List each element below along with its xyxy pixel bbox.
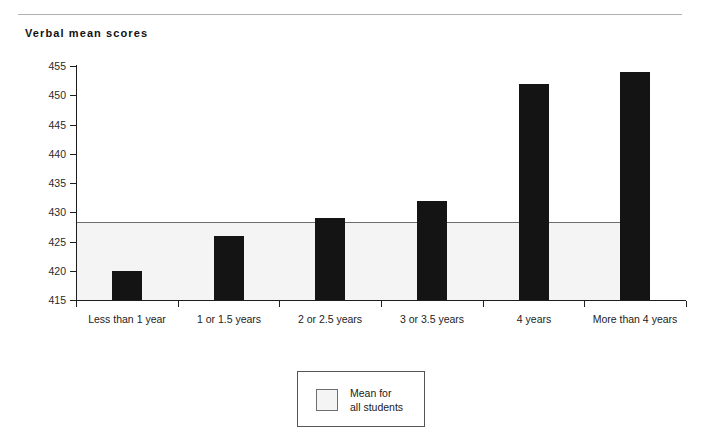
legend-label-line1: Mean for (350, 386, 403, 400)
y-tick-label: 455 (22, 61, 66, 72)
y-tick-label-wrap: 440 (18, 149, 66, 150)
y-tick-label: 415 (22, 295, 66, 306)
x-tick (381, 301, 382, 307)
x-tick (686, 301, 687, 307)
x-tick (279, 301, 280, 307)
legend: Mean for all students (297, 371, 425, 427)
y-tick (70, 183, 76, 184)
y-tick (70, 212, 76, 213)
y-tick (70, 154, 76, 155)
y-tick (70, 95, 76, 96)
y-tick-label: 425 (22, 237, 66, 248)
y-tick-label: 420 (22, 266, 66, 277)
y-tick-label-wrap: 450 (18, 90, 66, 91)
y-tick-label-wrap: 415 (18, 295, 66, 296)
chart-figure: Verbal mean scores 455450445440435430425… (0, 0, 702, 441)
y-tick-label-wrap: 435 (18, 178, 66, 179)
bar (315, 218, 345, 300)
y-tick-label: 450 (22, 90, 66, 101)
y-tick (70, 242, 76, 243)
x-axis-category-label: 2 or 2.5 years (298, 313, 362, 325)
x-axis-category-label: Less than 1 year (88, 313, 166, 325)
y-tick-label: 430 (22, 207, 66, 218)
x-axis-category-label: More than 4 years (593, 313, 678, 325)
bar (519, 84, 549, 300)
y-tick-label-wrap: 430 (18, 207, 66, 208)
y-tick (70, 271, 76, 272)
bar (620, 72, 650, 300)
bar (214, 236, 244, 300)
y-tick (70, 66, 76, 67)
x-tick (483, 301, 484, 307)
x-axis-category-label: 1 or 1.5 years (197, 313, 261, 325)
x-tick (178, 301, 179, 307)
bar (417, 201, 447, 300)
x-axis-category-label: 4 years (517, 313, 551, 325)
bar (112, 271, 142, 300)
y-tick-label-wrap: 425 (18, 237, 66, 238)
legend-label-mean: Mean for all students (350, 386, 403, 414)
x-tick (584, 301, 585, 307)
x-axis-category-label: 3 or 3.5 years (400, 313, 464, 325)
y-tick-label: 445 (22, 120, 66, 131)
legend-label-line2: all students (350, 400, 403, 414)
x-tick (76, 301, 77, 307)
y-tick-label: 435 (22, 178, 66, 189)
y-tick-label: 440 (22, 149, 66, 160)
y-tick-label-wrap: 445 (18, 120, 66, 121)
y-tick-label-wrap: 455 (18, 61, 66, 62)
y-axis-line (76, 65, 77, 301)
y-tick (70, 125, 76, 126)
legend-swatch-mean (316, 389, 338, 411)
y-tick-label-wrap: 420 (18, 266, 66, 267)
